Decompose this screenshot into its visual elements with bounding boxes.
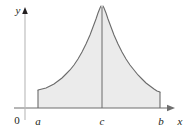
tick-label-a: a bbox=[35, 115, 41, 127]
origin-label: 0 bbox=[14, 114, 20, 126]
x-axis-label: x bbox=[177, 115, 183, 127]
y-axis-arrow-icon bbox=[22, 7, 28, 14]
shaded-area-under-curve bbox=[38, 6, 160, 108]
improper-integral-figure: y x 0 a c b bbox=[0, 0, 188, 140]
x-axis-arrow-icon bbox=[167, 105, 175, 111]
tick-label-c: c bbox=[100, 115, 105, 127]
y-axis-label: y bbox=[15, 4, 21, 16]
tick-label-b: b bbox=[158, 115, 164, 127]
figure-canvas: y x 0 a c b bbox=[0, 0, 188, 140]
